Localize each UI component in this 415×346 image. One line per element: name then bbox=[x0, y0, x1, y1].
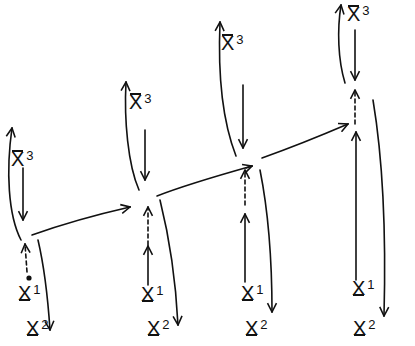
label-x2-node-4: X2 bbox=[353, 318, 376, 338]
label-x1-node-1: X1 bbox=[18, 283, 41, 303]
label-x1-node-2: X1 bbox=[141, 284, 164, 304]
label-x2-node-2: X2 bbox=[147, 318, 170, 338]
label-x3-node-4: X3 bbox=[347, 4, 370, 24]
origin-dot bbox=[27, 276, 31, 280]
label-x3-node-3: X3 bbox=[221, 33, 244, 53]
transition-arrow-3-4 bbox=[262, 124, 348, 158]
transition-arrow-2-3-head bbox=[246, 166, 252, 168]
transition-arrow-2-3 bbox=[157, 166, 252, 196]
label-x2-node-1: X2 bbox=[26, 318, 49, 338]
x1-dashed-arrow bbox=[25, 244, 27, 272]
feedback-arc-up bbox=[9, 128, 21, 240]
label-x1-node-3: X1 bbox=[241, 283, 264, 303]
label-x1-node-4: X1 bbox=[352, 278, 375, 298]
transition-arrow-1-2 bbox=[32, 207, 130, 235]
label-x3-node-2: X3 bbox=[129, 92, 152, 112]
x2-output-arc bbox=[160, 200, 178, 325]
feedback-arc-up bbox=[339, 5, 345, 83]
label-x3-node-1: X3 bbox=[11, 149, 34, 169]
x2-output-arc bbox=[373, 100, 385, 316]
node-4 bbox=[339, 5, 385, 316]
label-x2-node-3: X2 bbox=[245, 318, 268, 338]
